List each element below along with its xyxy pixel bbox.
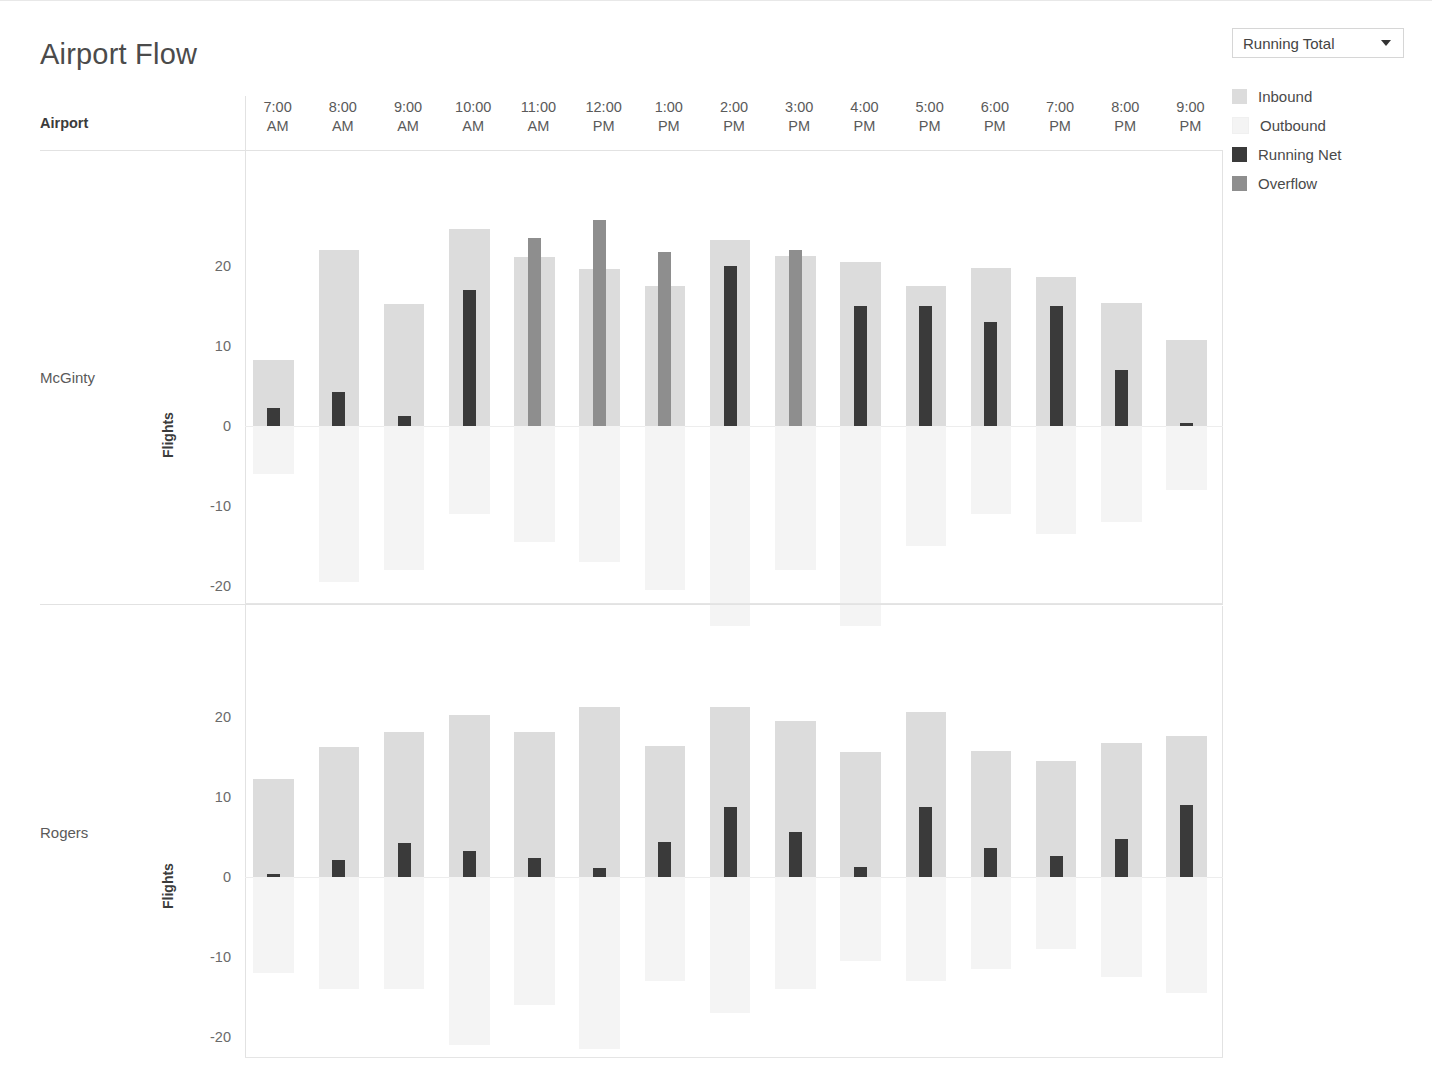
column-header[interactable]: 7:00AM <box>245 96 310 150</box>
chart-column[interactable] <box>767 151 832 604</box>
bar-outbound[interactable] <box>906 426 946 546</box>
chart-column[interactable] <box>636 151 701 604</box>
bar-running-net[interactable] <box>593 868 606 877</box>
bar-outbound[interactable] <box>645 426 685 590</box>
measure-selector-dropdown[interactable]: Running Total <box>1232 28 1404 58</box>
column-header[interactable]: 8:00AM <box>310 96 375 150</box>
legend-item[interactable]: Running Net <box>1232 140 1422 169</box>
chart-column[interactable] <box>375 606 440 1058</box>
chart-column[interactable] <box>1027 151 1092 604</box>
chart-column[interactable] <box>1093 606 1158 1058</box>
bar-overflow[interactable] <box>528 238 541 426</box>
chart-column[interactable] <box>897 151 962 604</box>
chart-column[interactable] <box>506 606 571 1058</box>
bar-running-net[interactable] <box>984 322 997 426</box>
bar-running-net[interactable] <box>854 306 867 426</box>
chart-column[interactable] <box>767 606 832 1058</box>
legend-item[interactable]: Inbound <box>1232 82 1422 111</box>
bar-running-net[interactable] <box>919 306 932 426</box>
bar-running-net[interactable] <box>789 832 802 877</box>
chart-column[interactable] <box>636 606 701 1058</box>
chart-column[interactable] <box>832 151 897 604</box>
bar-outbound[interactable] <box>319 877 359 989</box>
bar-outbound[interactable] <box>1036 426 1076 534</box>
bar-overflow[interactable] <box>658 252 671 426</box>
bar-inbound[interactable] <box>384 304 424 426</box>
chart-column[interactable] <box>701 606 766 1058</box>
bar-outbound[interactable] <box>1166 426 1206 490</box>
bar-running-net[interactable] <box>724 807 737 877</box>
bar-inbound[interactable] <box>1166 340 1206 426</box>
bar-outbound[interactable] <box>449 877 489 1045</box>
bar-inbound[interactable] <box>514 732 554 877</box>
bar-running-net[interactable] <box>1115 370 1128 426</box>
bar-outbound[interactable] <box>775 877 815 989</box>
bar-outbound[interactable] <box>253 426 293 474</box>
bar-outbound[interactable] <box>449 426 489 514</box>
bar-outbound[interactable] <box>579 426 619 562</box>
bar-running-net[interactable] <box>919 807 932 877</box>
bar-outbound[interactable] <box>319 426 359 582</box>
column-header[interactable]: 2:00PM <box>701 96 766 150</box>
bar-running-net[interactable] <box>658 842 671 877</box>
bar-outbound[interactable] <box>253 877 293 973</box>
bar-overflow[interactable] <box>593 220 606 426</box>
bar-outbound[interactable] <box>384 426 424 570</box>
bar-running-net[interactable] <box>267 874 280 877</box>
bar-inbound[interactable] <box>579 707 619 877</box>
chart-column[interactable] <box>245 151 310 604</box>
bar-running-net[interactable] <box>724 266 737 426</box>
bar-running-net[interactable] <box>463 290 476 426</box>
bar-running-net[interactable] <box>1050 856 1063 877</box>
chart-column[interactable] <box>506 151 571 604</box>
bar-running-net[interactable] <box>1115 839 1128 877</box>
bar-outbound[interactable] <box>1101 426 1141 522</box>
bar-outbound[interactable] <box>514 877 554 1005</box>
bar-outbound[interactable] <box>710 877 750 1013</box>
chart-column[interactable] <box>571 606 636 1058</box>
bar-running-net[interactable] <box>463 851 476 877</box>
bar-outbound[interactable] <box>710 426 750 626</box>
bar-overflow[interactable] <box>789 250 802 426</box>
chart-column[interactable] <box>1158 606 1223 1058</box>
column-header[interactable]: 6:00PM <box>962 96 1027 150</box>
bar-outbound[interactable] <box>1036 877 1076 949</box>
legend-item[interactable]: Outbound <box>1232 111 1422 140</box>
bar-outbound[interactable] <box>645 877 685 981</box>
legend-item[interactable]: Overflow <box>1232 169 1422 198</box>
bar-outbound[interactable] <box>579 877 619 1049</box>
chart-column[interactable] <box>962 151 1027 604</box>
bar-outbound[interactable] <box>971 426 1011 514</box>
bar-outbound[interactable] <box>384 877 424 989</box>
bar-running-net[interactable] <box>984 848 997 877</box>
bar-outbound[interactable] <box>1166 877 1206 993</box>
bar-running-net[interactable] <box>332 860 345 877</box>
bar-outbound[interactable] <box>1101 877 1141 977</box>
chart-column[interactable] <box>701 151 766 604</box>
chart-column[interactable] <box>1093 151 1158 604</box>
bar-running-net[interactable] <box>398 416 411 426</box>
bar-running-net[interactable] <box>267 408 280 426</box>
bar-running-net[interactable] <box>1180 423 1193 426</box>
bar-outbound[interactable] <box>840 426 880 626</box>
bar-outbound[interactable] <box>840 877 880 961</box>
chart-column[interactable] <box>571 151 636 604</box>
bar-inbound[interactable] <box>319 747 359 877</box>
chart-column[interactable] <box>1027 606 1092 1058</box>
column-header[interactable]: 1:00PM <box>636 96 701 150</box>
chart-column[interactable] <box>310 606 375 1058</box>
bar-running-net[interactable] <box>398 843 411 877</box>
column-header[interactable]: 7:00PM <box>1027 96 1092 150</box>
bar-inbound[interactable] <box>840 752 880 877</box>
bar-running-net[interactable] <box>528 858 541 877</box>
column-header[interactable]: 12:00PM <box>571 96 636 150</box>
column-header[interactable]: 9:00PM <box>1158 96 1223 150</box>
chart-column[interactable] <box>962 606 1027 1058</box>
bar-outbound[interactable] <box>775 426 815 570</box>
column-header[interactable]: 10:00AM <box>441 96 506 150</box>
chart-column[interactable] <box>441 606 506 1058</box>
column-header[interactable]: 5:00PM <box>897 96 962 150</box>
column-header[interactable]: 9:00AM <box>375 96 440 150</box>
column-header[interactable]: 3:00PM <box>767 96 832 150</box>
column-header[interactable]: 8:00PM <box>1093 96 1158 150</box>
